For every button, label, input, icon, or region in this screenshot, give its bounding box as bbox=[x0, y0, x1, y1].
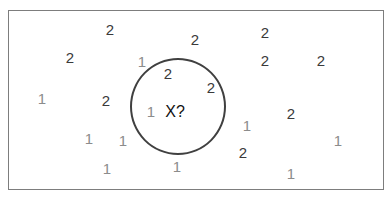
point-class-1: 1 bbox=[147, 104, 155, 119]
point-class-2: 2 bbox=[164, 66, 172, 81]
point-class-1: 1 bbox=[138, 54, 146, 69]
point-class-1: 1 bbox=[119, 133, 127, 148]
point-class-2: 2 bbox=[287, 106, 295, 121]
point-class-2: 2 bbox=[317, 53, 325, 68]
point-class-1: 1 bbox=[334, 133, 342, 148]
point-class-2: 2 bbox=[261, 25, 269, 40]
point-class-2: 2 bbox=[239, 145, 247, 160]
point-class-1: 1 bbox=[103, 161, 111, 176]
point-class-2: 2 bbox=[106, 22, 114, 37]
point-class-1: 1 bbox=[287, 166, 295, 181]
point-class-2: 2 bbox=[261, 53, 269, 68]
point-class-2: 2 bbox=[207, 80, 215, 95]
point-class-1: 1 bbox=[85, 131, 93, 146]
point-class-1: 1 bbox=[173, 159, 181, 174]
point-class-1: 1 bbox=[38, 91, 46, 106]
point-class-2: 2 bbox=[66, 50, 74, 65]
query-point: X? bbox=[165, 104, 185, 119]
point-class-2: 2 bbox=[191, 32, 199, 47]
knn-diagram: 2 2 2 1 2 2 2 2 2 1 2 1 2 1 1 1 1 2 1 1 … bbox=[0, 0, 391, 199]
point-class-1: 1 bbox=[243, 118, 251, 133]
point-class-2: 2 bbox=[102, 93, 110, 108]
